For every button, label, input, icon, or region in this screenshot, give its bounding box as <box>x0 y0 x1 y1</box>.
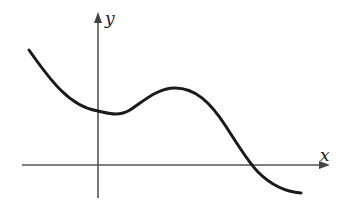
y-axis <box>94 12 102 198</box>
y-axis-label: y <box>104 8 115 28</box>
y-axis-arrow-icon <box>94 12 102 23</box>
x-axis <box>22 161 330 169</box>
x-axis-label: x <box>320 145 330 165</box>
graph: x y <box>0 0 350 213</box>
function-curve <box>29 50 301 193</box>
